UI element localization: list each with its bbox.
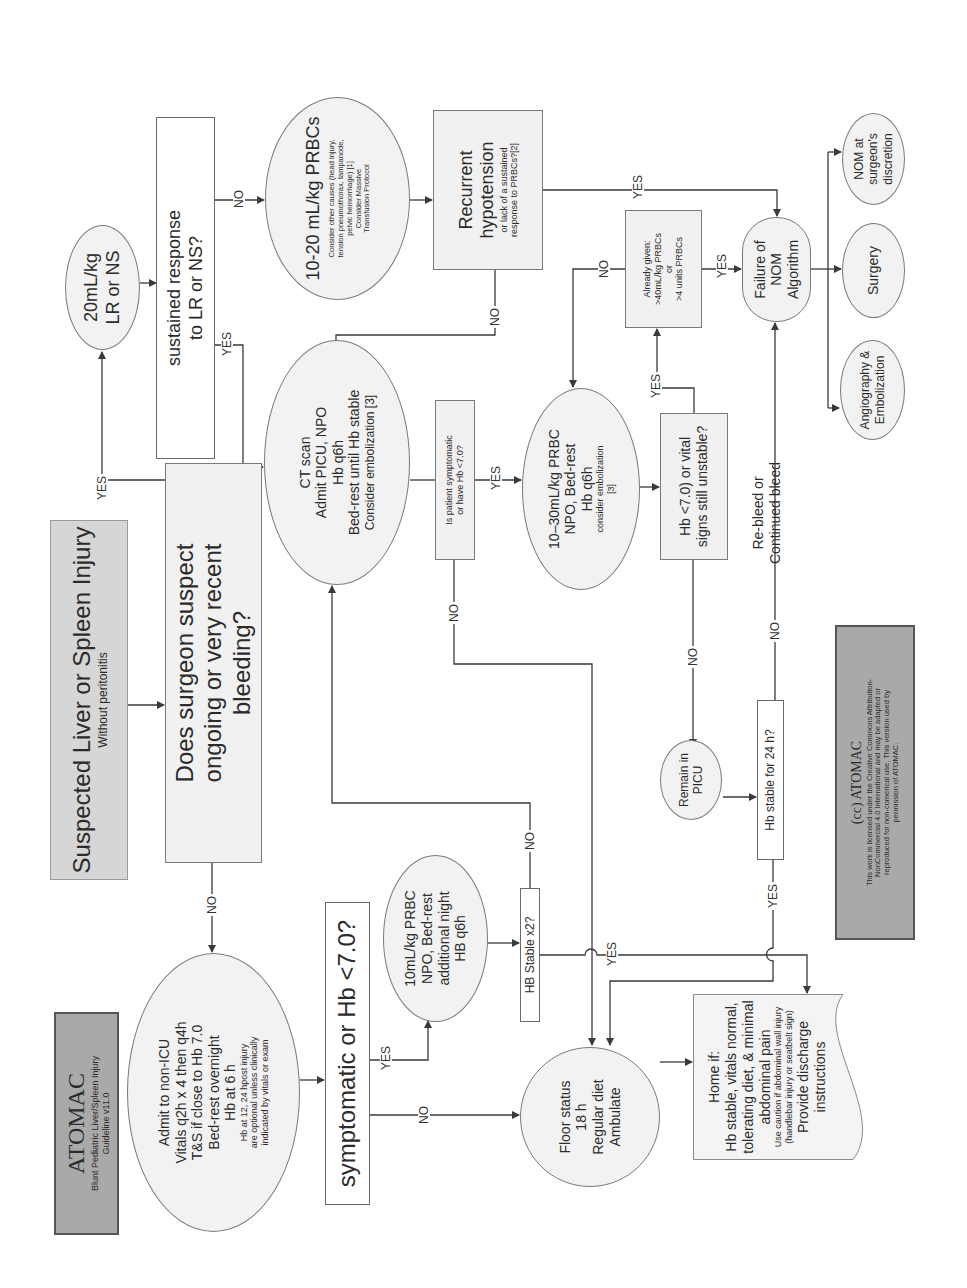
decision-hb-stable-x2: HB Stable x2? xyxy=(520,888,540,1022)
ct-line: Hb q6h xyxy=(330,440,347,485)
ct-line: Consider embolization [3] xyxy=(363,395,377,530)
home-line: abdominal pain xyxy=(757,1030,774,1125)
admit-line: T&S if close to Hb 7.0 xyxy=(189,1025,206,1160)
edge-label-no-sustained: NO xyxy=(233,188,245,210)
floor-status-node: Floor status 18 h Regular diet Ambulate xyxy=(520,1047,660,1187)
edge-label-no-symptomatic-check: NO xyxy=(448,602,460,624)
home-line: tolerating diet, & minimal xyxy=(740,1000,757,1153)
home-note: Use caution if abdominal wall injury xyxy=(773,1007,784,1148)
remain-line: PICU xyxy=(691,766,705,795)
admit-note: are optional unless clinically xyxy=(249,1037,260,1149)
license-box: (cc) ATOMAC This work is licensed under … xyxy=(835,625,915,940)
rebleed-line: Re-bleed or xyxy=(750,476,767,549)
already-line: >40mL/kg PRBCs xyxy=(653,233,664,305)
already-line: Already given: xyxy=(642,240,653,297)
prbc-10-30-line: Hb q6h xyxy=(579,466,596,511)
edge-label-yes-hb-x2: YES xyxy=(606,940,618,968)
edge-label-yes-symptomatic-q: YES xyxy=(380,1044,392,1072)
edge-label-yes-24h: YES xyxy=(767,882,779,910)
decision-sustained-response: sustained response to LR or NS? xyxy=(156,117,215,459)
sustained-line: to LR or NS? xyxy=(186,236,207,340)
prbc-10-30-line: [3] xyxy=(606,484,617,494)
already-line: >4 units PRBCs xyxy=(674,237,685,301)
prbc-title: 10-20 mL/kg PRBCs xyxy=(303,116,324,280)
hb-unstable-line: signs still unstable? xyxy=(694,426,711,547)
decision-hb-unstable: Hb <7.0) or vital signs still unstable? xyxy=(660,413,728,560)
outcome-line: surgeon's xyxy=(866,133,880,185)
outcome-line: Surgery xyxy=(865,246,882,295)
recurrent-note: or lack of a sustained xyxy=(499,147,510,232)
recurrent-line: Recurrent xyxy=(456,150,477,229)
license-title: (cc) ATOMAC xyxy=(849,741,866,824)
prbc-10-30-line: 10–30mL/kg PRBC xyxy=(546,429,563,549)
admit-note: indicated by vitals or exam xyxy=(260,1039,271,1145)
failure-line: NOM xyxy=(768,253,785,286)
prbc-10ml-node: 10mL/kg PRBC NPO, Bed-rest additional ni… xyxy=(383,855,488,1022)
edge-label-yes-already: YES xyxy=(716,252,728,280)
edge-label-yes-bleeding: YES xyxy=(96,474,108,502)
hb-24h-label: Hb stable for 24 h? xyxy=(763,729,777,830)
remain-in-picu-node: Remain in PICU xyxy=(660,740,722,820)
decision-already-given: Already given: >40mL/kg PRBCs or >4 unit… xyxy=(625,210,702,328)
floor-line: Floor status xyxy=(557,1080,574,1153)
decision-recurrent-hypotension: Recurrent hypotension or lack of a susta… xyxy=(433,110,543,270)
hb-x2-label: HB Stable x2? xyxy=(523,917,537,994)
atomac-title-box: ATOMAC Blunt Pediatric Liver/Spleen Inju… xyxy=(54,1012,119,1235)
bolus-20ml-node: 20mL/kg LR or NS xyxy=(65,225,140,350)
decision-line: Does surgeon suspect xyxy=(171,544,199,783)
home-line: Provide discharge instructions xyxy=(795,994,829,1160)
home-note: (handlebar injury or seatbelt sign) xyxy=(784,1010,795,1144)
failure-of-nom-node: Failure of NOM Algorithm xyxy=(742,217,811,322)
home-line: Hb stable, vitals normal, xyxy=(723,1002,740,1151)
is-symptomatic-line: Is patient symptomatic xyxy=(444,435,455,525)
recurrent-note: response to PRBCs?[2] xyxy=(509,143,520,237)
decision-ongoing-bleeding: Does surgeon suspect ongoing or very rec… xyxy=(165,463,262,863)
outcome-line: discretion xyxy=(881,133,895,184)
prbc-10-line: additional night xyxy=(436,891,453,985)
admit-line: Bed-rest overnight xyxy=(206,1035,223,1149)
outcome-line: Embolization xyxy=(873,356,887,425)
edge-label-yes-unstable: YES xyxy=(650,372,662,400)
ct-line: Admit PICU, NPO xyxy=(313,407,330,518)
start-subtitle: Without peritonitis xyxy=(96,652,110,747)
bolus-line: 20mL/kg xyxy=(81,253,102,322)
flowchart-canvas: YES NO NO YES NO YES YES NO NO YES YES N… xyxy=(0,0,967,1288)
admit-line: Hb at 6 h xyxy=(222,1064,239,1121)
decision-line: bleeding? xyxy=(228,611,256,715)
outcome-angiography: Angiography & Embolization xyxy=(840,340,905,440)
ct-scan-admit-picu-node: CT scan Admit PICU, NPO Hb q6h Bed-rest … xyxy=(264,340,410,585)
is-symptomatic-line: or have Hb <7.0? xyxy=(455,445,466,514)
sustained-line: sustained response xyxy=(164,210,185,366)
admit-non-icu-node: Admit to non-ICU Vitals q2h x 4 then q4h… xyxy=(127,953,300,1232)
edge-label-yes-symptomatic-check: YES xyxy=(490,464,502,492)
edge-label-no-unstable: NO xyxy=(687,646,699,668)
rebleed-label: Re-bleed or Continued bleed xyxy=(750,438,784,588)
failure-line: Failure of xyxy=(752,240,769,298)
bolus-line: LR or NS xyxy=(103,250,124,324)
failure-line: Algorithm xyxy=(785,240,802,299)
ct-line: Bed-rest until Hb stable xyxy=(346,390,363,536)
outcome-line: NOM at xyxy=(852,138,866,179)
already-line: or xyxy=(664,265,675,273)
decision-line: ongoing or very recent xyxy=(199,544,227,783)
admit-line: Admit to non-ICU xyxy=(156,1039,173,1146)
start-suspected-injury: Suspected Liver or Spleen Injury Without… xyxy=(50,520,128,880)
hb-unstable-line: Hb <7.0) or vital xyxy=(677,437,694,536)
edge-label-no-symptomatic-q: NO xyxy=(418,1104,430,1126)
prbc-10-line: NPO, Bed-rest xyxy=(419,893,436,984)
prbc-10-30-line: consider embolization xyxy=(595,445,606,532)
prbc-10-30-node: 10–30mL/kg PRBC NPO, Bed-rest Hb q6h con… xyxy=(522,388,640,590)
edge-label-no-recurrent: NO xyxy=(489,306,501,328)
edge-label-yes-sustained: YES xyxy=(221,330,233,358)
floor-line: Regular diet xyxy=(590,1079,607,1155)
edge-label-no-already: NO xyxy=(598,258,610,280)
ct-line: CT scan xyxy=(297,437,314,489)
admit-note: Hb at 12, 24 hpost injury xyxy=(239,1044,250,1142)
edge-label-no-hb-x2: NO xyxy=(524,830,536,852)
outcome-nom-discretion: NOM at surgeon's discretion xyxy=(842,113,905,205)
outcome-surgery: Surgery xyxy=(842,223,905,318)
edge-label-no-24h: NO xyxy=(769,620,781,642)
rebleed-line: Continued bleed xyxy=(767,462,784,564)
decision-hb-stable-24h: Hb stable for 24 h? xyxy=(757,700,784,860)
floor-line: Ambulate xyxy=(607,1087,624,1146)
